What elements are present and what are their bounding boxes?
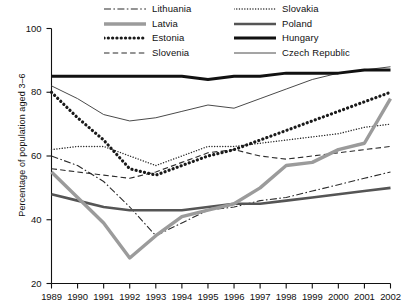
y-tick-60: 60: [16, 150, 42, 161]
legend-label-hungary: Hungary: [282, 33, 319, 43]
legend-label-slovakia: Slovakia: [282, 4, 319, 14]
legend-item-slovenia[interactable]: Slovenia: [104, 46, 234, 61]
legend-swatch-lithuania: [104, 3, 146, 15]
series-line-slovenia: [52, 146, 391, 178]
legend-item-slovakia[interactable]: Slovakia: [234, 2, 392, 17]
y-tick-40: 40: [16, 214, 42, 225]
legend-item-poland[interactable]: Poland: [234, 17, 392, 32]
y-tick-20: 20: [16, 278, 42, 289]
legend-swatch-hungary: [234, 32, 276, 44]
legend-swatch-estonia: [104, 32, 146, 44]
legend-label-lithuania: Lithuania: [152, 4, 191, 14]
legend-swatch-slovenia: [104, 47, 146, 59]
legend-item-lithuania[interactable]: Lithuania: [104, 2, 234, 17]
legend-label-poland: Poland: [282, 19, 312, 29]
y-tick-100: 100: [16, 23, 42, 34]
legend-item-latvia[interactable]: Latvia: [104, 17, 234, 32]
legend-item-czech-republic[interactable]: Czech Republic: [234, 46, 392, 61]
legend-label-slovenia: Slovenia: [152, 48, 189, 58]
legend-label-czech-republic: Czech Republic: [282, 48, 350, 58]
series-line-hungary: [52, 70, 391, 80]
legend-label-estonia: Estonia: [152, 33, 184, 43]
series-line-latvia: [52, 99, 391, 258]
legend-swatch-poland: [234, 18, 276, 30]
legend-label-latvia: Latvia: [152, 19, 178, 29]
legend-swatch-czech-republic: [234, 47, 276, 59]
series-line-estonia: [52, 92, 391, 175]
legend-swatch-latvia: [104, 18, 146, 30]
x-tick-2002: 2002: [376, 291, 406, 302]
series-line-slovakia: [52, 124, 391, 165]
legend-item-estonia[interactable]: Estonia: [104, 31, 234, 46]
chart-legend: Lithuania Slovakia Latvia Poland Estonia…: [104, 2, 392, 60]
y-tick-80: 80: [16, 86, 42, 97]
legend-item-hungary[interactable]: Hungary: [234, 31, 392, 46]
legend-swatch-slovakia: [234, 3, 276, 15]
